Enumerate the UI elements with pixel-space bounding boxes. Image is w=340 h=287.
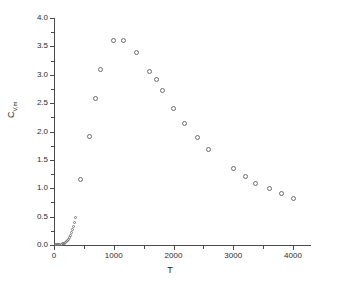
data-point (253, 181, 258, 186)
data-point (291, 196, 296, 201)
data-point (171, 106, 176, 111)
x-tick-label: 4000 (273, 251, 313, 260)
data-point (206, 147, 211, 152)
data-point (72, 225, 75, 228)
plot-area (54, 18, 306, 245)
y-tick-label: 0.5 (8, 212, 48, 221)
x-tick-label: 0 (34, 251, 74, 260)
data-point (93, 96, 98, 101)
data-point (243, 174, 248, 179)
data-point (121, 38, 126, 43)
data-point (134, 50, 139, 55)
x-tick-major (54, 246, 55, 250)
x-tick-label: 2000 (154, 251, 194, 260)
data-point (147, 69, 152, 74)
y-tick-label: 3.0 (8, 70, 48, 79)
data-point (87, 134, 92, 139)
x-tick-minor (203, 246, 204, 249)
x-tick-major (233, 246, 234, 250)
data-point (267, 186, 272, 191)
data-point (195, 135, 200, 140)
data-point (231, 166, 236, 171)
data-point (69, 234, 72, 237)
x-axis-line (54, 245, 311, 246)
data-point (279, 191, 284, 196)
x-tick-major (174, 246, 175, 250)
data-point (70, 231, 73, 234)
x-tick-minor (84, 246, 85, 249)
x-tick-major (114, 246, 115, 250)
x-tick-major (293, 246, 294, 250)
x-tick-minor (144, 246, 145, 249)
data-point (182, 121, 187, 126)
data-point (73, 221, 76, 224)
y-axis-title-subscript: V,m (12, 101, 18, 111)
y-tick-label: 2.0 (8, 127, 48, 136)
data-point (98, 67, 103, 72)
data-point (74, 216, 77, 219)
x-axis-title: T (0, 265, 340, 275)
data-point (154, 77, 159, 82)
y-tick-label: 4.0 (8, 13, 48, 22)
x-tick-minor (263, 246, 264, 249)
data-point (111, 38, 116, 43)
y-tick-label: 0.0 (8, 240, 48, 249)
data-point (78, 177, 83, 182)
y-axis-title-base: C (6, 112, 16, 119)
y-tick-label: 3.5 (8, 41, 48, 50)
y-tick-label: 1.5 (8, 155, 48, 164)
x-tick-label: 1000 (94, 251, 134, 260)
chart-figure: 0.00.51.01.52.02.53.03.54.0 010002000300… (0, 0, 340, 287)
x-tick-label: 3000 (213, 251, 253, 260)
data-point (160, 88, 165, 93)
y-axis-title: CV,m (6, 101, 18, 118)
y-tick-label: 1.0 (8, 183, 48, 192)
